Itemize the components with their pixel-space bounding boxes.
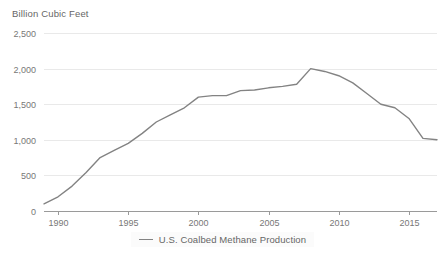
y-axis-tick-label: 1,000 xyxy=(13,136,36,146)
x-axis-tick-label: 2005 xyxy=(259,218,279,228)
data-series xyxy=(44,69,437,204)
legend-line-swatch-icon xyxy=(139,239,153,240)
y-axis-tick-label: 0 xyxy=(31,207,36,217)
x-axis-tick-label: 1990 xyxy=(48,218,68,228)
legend-item[interactable]: U.S. Coalbed Methane Production xyxy=(131,232,314,247)
y-axis-tick-label: 2,500 xyxy=(13,29,36,39)
legend-item-label: U.S. Coalbed Methane Production xyxy=(159,234,306,245)
x-axis-ticks: 199019952000200520102015 xyxy=(48,212,419,228)
x-axis-tick-label: 2015 xyxy=(399,218,419,228)
chart-container: Billion Cubic Feet 05001,0001,5002,0002,… xyxy=(0,0,445,256)
series-line xyxy=(44,69,437,204)
x-axis-tick-label: 1995 xyxy=(118,218,138,228)
x-axis-tick-label: 2010 xyxy=(329,218,349,228)
chart-legend: U.S. Coalbed Methane Production xyxy=(0,232,445,247)
y-axis-tick-labels: 05001,0001,5002,0002,500 xyxy=(13,29,36,217)
gridlines xyxy=(44,34,437,212)
y-axis-tick-label: 500 xyxy=(21,171,36,181)
x-axis-tick-label: 2000 xyxy=(188,218,208,228)
y-axis-tick-label: 2,000 xyxy=(13,65,36,75)
chart-plot-area: 05001,0001,5002,0002,500 199019952000200… xyxy=(0,0,445,232)
y-axis-tick-label: 1,500 xyxy=(13,100,36,110)
